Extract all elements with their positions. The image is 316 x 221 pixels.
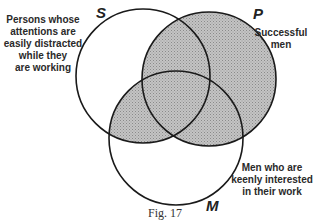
set-letter-m: M bbox=[206, 197, 219, 214]
venn-diagram: S P M Persons whose attentions are easil… bbox=[0, 0, 316, 221]
set-letter-p: P bbox=[253, 5, 263, 22]
set-letter-s: S bbox=[96, 4, 106, 21]
label-set-s: Persons whose attentions are easily dist… bbox=[0, 14, 88, 74]
label-set-m: Men who are keenly interested in their w… bbox=[226, 162, 316, 198]
label-set-p: Successful men bbox=[248, 27, 314, 51]
figure-caption: Fig. 17 bbox=[148, 206, 182, 221]
